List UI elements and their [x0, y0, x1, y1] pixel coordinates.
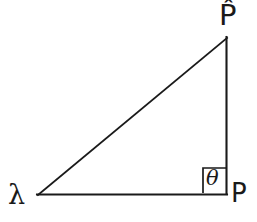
vertex-label-lambda: λ: [8, 181, 25, 208]
angle-label-theta: θ: [206, 168, 219, 189]
vertex-label-p: P: [231, 180, 247, 206]
triangle-diagram-canvas: λ P̂ P θ: [0, 0, 257, 222]
hypotenuse-line: [38, 38, 227, 195]
vertex-label-p-hat: P̂: [219, 1, 237, 30]
